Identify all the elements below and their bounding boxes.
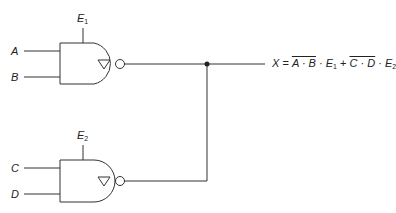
open-collector-icon (98, 60, 110, 69)
inversion-bubble-2 (116, 177, 125, 186)
input-d-label: D (11, 189, 19, 200)
enable-e2-label: E2 (77, 130, 88, 142)
nand-gate-1-body (60, 43, 110, 84)
overline-cd: C · D (350, 57, 376, 69)
gate-1 (24, 28, 265, 84)
inversion-bubble-1 (116, 60, 125, 69)
output-expression: X = A · B · E1 + C · D · E2 (272, 58, 396, 70)
output-wire-2 (125, 64, 208, 181)
overline-ab: A · B (292, 57, 316, 69)
input-b-label: B (11, 72, 18, 83)
open-collector-icon (98, 177, 110, 186)
enable-e1-label: E1 (77, 13, 88, 25)
junction-dot (205, 62, 210, 67)
input-c-label: C (11, 163, 19, 174)
gate-2 (24, 64, 207, 202)
input-a-label: A (11, 46, 18, 57)
